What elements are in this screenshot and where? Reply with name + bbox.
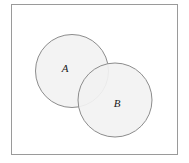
- venn-diagram-canvas: A B: [0, 0, 189, 163]
- set-b-label: B: [114, 97, 121, 109]
- set-a-label: A: [61, 62, 69, 74]
- venn-diagram-figure: A B: [0, 0, 189, 163]
